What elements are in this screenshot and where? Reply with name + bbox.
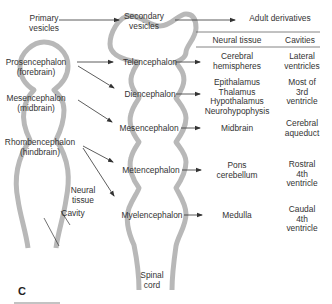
arrow-rhombencephalon-metencephalon <box>83 146 113 162</box>
label-neural-tissue: Neural tissue <box>66 186 100 205</box>
secondary-label-diencephalon: Diencephalon <box>122 90 178 100</box>
primary-vesicles-header: Primary vesicles <box>20 14 68 33</box>
cavity-telencephalon: Lateral ventricles <box>280 52 324 71</box>
primary-label-mesencephalon: Mesencephalon (midbrain) <box>4 94 68 113</box>
secondary-label-metencephalon: Metencephalon <box>122 166 180 176</box>
adult-derivatives-header: Adult derivatives <box>240 14 320 24</box>
neural-tissue-diencephalon: Epithalamus Thalamus Hypothalamus Neuroh… <box>200 78 274 116</box>
column-header-neural-tissue: Neural tissue <box>205 36 269 46</box>
secondary-label-myelencephalon: Myelencephalon <box>120 211 184 221</box>
cavity-metencephalon: Rostral 4th ventricle <box>280 160 324 189</box>
neural-tissue-mesencephalon: Midbrain <box>205 124 269 134</box>
cavity-diencephalon: Most of 3rd ventricle <box>280 78 324 107</box>
primary-label-prosencephalon: Prosencephalon (forebrain) <box>4 58 68 77</box>
secondary-label-telencephalon: Telencephalon <box>122 58 178 68</box>
cavity-myelencephalon: Caudal 4th ventricle <box>280 205 324 234</box>
secondary-vesicles-header: Secondary vesicles <box>120 12 168 31</box>
primary-label-rhombencephalon: Rhombencephalon (hindbrain) <box>2 138 78 157</box>
secondary-vesicle-tube <box>110 14 196 290</box>
label-spinal-cord: Spinal cord <box>136 271 168 290</box>
cavity-mesencephalon: Cerebral aqueduct <box>280 119 324 138</box>
label-cavity: Cavity <box>58 209 88 219</box>
arrow-prosencephalon-diencephalon <box>78 66 114 88</box>
column-header-cavities: Cavities <box>280 36 320 46</box>
neural-tissue-metencephalon: Pons cerebellum <box>205 161 269 180</box>
neural-tissue-telencephalon: Cerebral hemispheres <box>205 52 269 71</box>
neural-tissue-myelencephalon: Medulla <box>205 211 269 221</box>
panel-label: C <box>18 285 26 297</box>
secondary-label-mesencephalon: Mesencephalon <box>118 124 180 134</box>
arrow-mesencephalon-mesencephalon <box>78 100 112 122</box>
